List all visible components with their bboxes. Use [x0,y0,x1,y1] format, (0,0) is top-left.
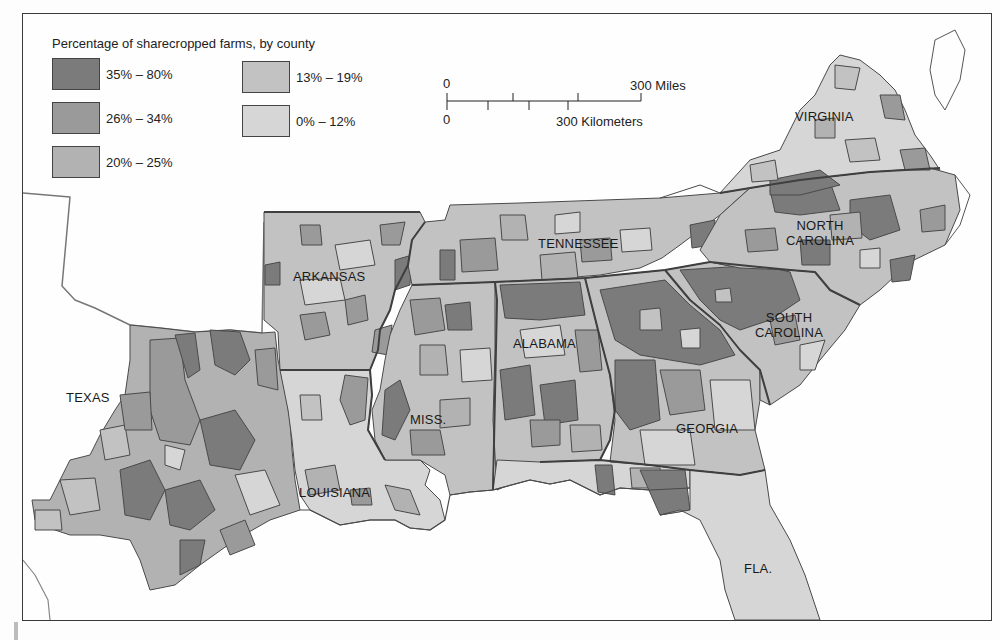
label-north-carolina-line1: NORTH [786,218,854,233]
label-virginia: VIRGINIA [795,109,854,124]
label-alabama: ALABAMA [513,336,576,351]
legend-item-20-25: 20% – 25% [52,146,173,178]
label-georgia: GEORGIA [676,421,738,436]
label-louisiana: LOUISIANA [299,485,370,500]
new-mexico-outline [23,560,50,620]
label-tennessee: TENNESSEE [538,236,619,251]
oklahoma-outline [23,193,264,333]
legend: Percentage of sharecropped farms, by cou… [52,28,382,178]
scale-km-zero: 0 [443,112,450,127]
legend-label: 13% – 19% [296,70,363,85]
legend-item-0-12: 0% – 12% [242,105,355,137]
legend-swatch [242,61,290,93]
scale-bar-graphic [447,93,641,110]
label-mississippi: MISS. [410,412,446,427]
legend-title: Percentage of sharecropped farms, by cou… [52,36,315,51]
legend-swatch [52,58,100,90]
scale-miles-label: 300 Miles [630,78,686,93]
legend-swatch [52,146,100,178]
label-south-carolina-line1: SOUTH [755,310,823,325]
scale-miles-zero: 0 [443,76,450,91]
legend-swatch [242,105,290,137]
legend-label: 20% – 25% [106,155,173,170]
label-arkansas: ARKANSAS [293,269,365,284]
legend-label: 0% – 12% [296,114,355,129]
legend-label: 26% – 34% [106,111,173,126]
legend-item-35-80: 35% – 80% [52,58,173,90]
label-south-carolina-line2: CAROLINA [755,325,823,340]
legend-item-13-19: 13% – 19% [242,61,363,93]
label-north-carolina-line2: CAROLINA [786,233,854,248]
label-south-carolina: SOUTH CAROLINA [755,310,823,340]
legend-label: 35% – 80% [106,67,173,82]
label-texas: TEXAS [66,390,110,405]
legend-item-26-34: 26% – 34% [52,102,173,134]
scale-km-label: 300 Kilometers [556,114,643,129]
legend-swatch [52,102,100,134]
label-north-carolina: NORTH CAROLINA [786,218,854,248]
delmarva-outline [930,30,965,110]
label-florida: FLA. [744,561,772,576]
